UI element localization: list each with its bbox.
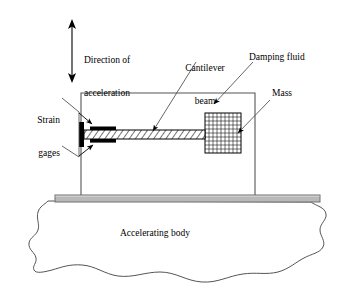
accelerating-body-label: Accelerating body	[120, 228, 190, 239]
strain-gage-upper	[90, 127, 116, 131]
cantilever-beam-label-line1: Cantilever	[176, 63, 234, 74]
direction-label-line2: acceleration	[84, 88, 130, 99]
mass-label: Mass	[272, 88, 292, 99]
cantilever-beam	[84, 130, 205, 139]
strain-gage-lower	[90, 139, 116, 143]
acceleration-arrow	[68, 19, 76, 83]
damping-fluid-label: Damping fluid	[249, 52, 305, 63]
mass-leader	[238, 100, 270, 133]
mass-block	[205, 113, 241, 153]
direction-label: Direction of acceleration	[84, 33, 130, 110]
direction-label-line1: Direction of	[84, 55, 130, 66]
cantilever-beam-label: Cantilever beam	[176, 41, 234, 118]
strain-gages-label: Strain gages	[14, 93, 60, 170]
strain-gages-label-line2: gages	[14, 148, 60, 159]
accelerating-body-outline	[29, 201, 326, 282]
cantilever-beam-label-line2: beam	[176, 96, 234, 107]
strain-gages-label-line1: Strain	[14, 115, 60, 126]
beam-clamp	[79, 122, 84, 147]
strain-gages-leader	[62, 98, 79, 157]
